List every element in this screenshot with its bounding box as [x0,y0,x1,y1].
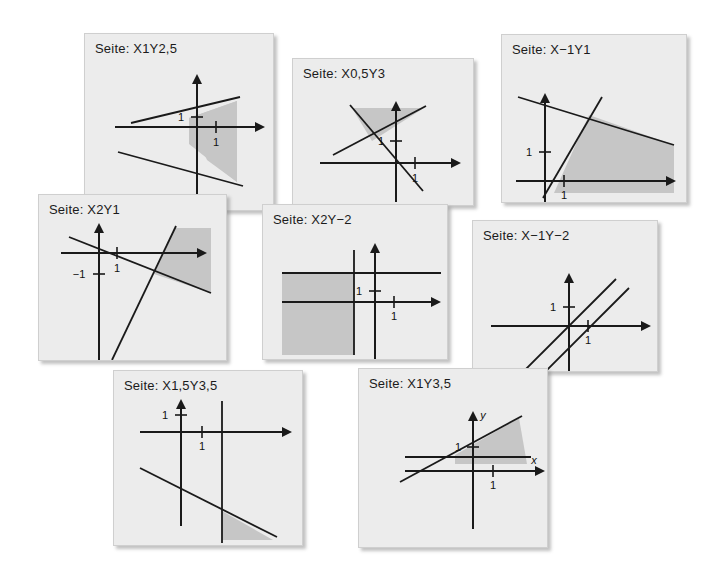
constraint-line-2 [140,468,277,537]
shaded-region [154,228,211,293]
x-tick-label: 1 [114,262,120,274]
y-axis-arrow [468,411,478,421]
y-axis-label: y [479,409,487,421]
x-axis-arrow [431,297,441,307]
figure-page: Seite: X1Y2,5 1 1 Seite: X0,5Y3 [0,0,719,583]
x-tick-label: 1 [199,440,205,452]
plot-x-1y1: 1 1 [502,35,687,203]
panel-x0-5y3[interactable]: Seite: X0,5Y3 1 1 [292,58,474,206]
x-axis-arrow [535,466,545,476]
y-tick-label: 1 [378,135,384,147]
y-axis-arrow [94,223,104,233]
panel-x-1y1[interactable]: Seite: X−1Y1 1 1 [501,34,687,203]
x-tick-label: 1 [412,172,418,184]
plot-x0-5y3: 1 1 [293,59,474,206]
shaded-region [282,273,354,355]
x-axis-arrow [641,321,651,331]
x-axis-arrow [451,158,461,168]
panel-x2y1[interactable]: Seite: X2Y1 1 −1 [38,194,227,361]
shaded-region [222,511,273,540]
y-tick-label: 1 [550,301,556,313]
x-tick-label: 1 [561,189,567,201]
x-tick-label: 1 [490,479,496,491]
x-tick-label: 1 [213,136,219,148]
plot-x1y3-5: x y 1 1 [359,369,548,548]
x-axis-arrow [282,427,292,437]
panel-x-1y-2[interactable]: Seite: X−1Y−2 1 1 [472,220,658,372]
x-tick-label: 1 [391,310,397,322]
x-tick-label: 1 [585,334,591,346]
y-tick-label: 1 [162,409,168,421]
y-tick-label: 1 [356,285,362,297]
y-tick-label: 1 [178,111,184,123]
x-axis-label: x [530,454,537,466]
plot-x-1y-2: 1 1 [473,221,658,372]
y-tick-label: −1 [73,268,86,280]
y-axis-arrow [192,74,202,84]
y-axis-arrow [391,101,401,111]
y-axis-arrow [540,93,550,103]
panel-x1y2-5[interactable]: Seite: X1Y2,5 1 1 [84,33,274,211]
plot-x2y-2: 1 1 [263,205,448,360]
panel-x2y-2[interactable]: Seite: X2Y−2 1 1 [262,204,448,360]
plot-x2y1: 1 −1 [39,195,227,361]
y-axis-arrow [564,273,574,283]
constraint-line-2 [112,226,176,360]
constraint-line-2 [544,288,629,372]
x-axis-arrow [255,122,265,132]
y-tick-label: 1 [526,146,532,158]
y-tick-label: 1 [455,441,461,453]
panel-x1y3-5[interactable]: Seite: X1Y3,5 x y 1 1 [358,368,548,548]
panel-x1-5y3-5[interactable]: Seite: X1,5Y3,5 1 1 [113,370,303,546]
plot-x1y2-5: 1 1 [85,34,274,211]
y-axis-arrow [176,399,186,409]
y-axis-arrow [370,243,380,253]
plot-x1-5y3-5: 1 1 [114,371,303,546]
